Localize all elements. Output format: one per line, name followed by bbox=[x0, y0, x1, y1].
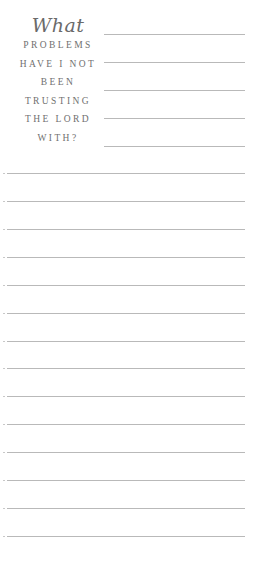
prompt-line-6: WITH? bbox=[14, 129, 102, 148]
line-tick-mark bbox=[3, 424, 5, 425]
prompt-line-3: BEEN bbox=[14, 73, 102, 92]
writing-line-short bbox=[104, 118, 245, 119]
writing-line-full bbox=[7, 396, 245, 397]
line-tick-mark bbox=[3, 173, 5, 174]
line-tick-mark bbox=[3, 396, 5, 397]
prompt-line-4: TRUSTING bbox=[14, 92, 102, 111]
line-tick-mark bbox=[3, 229, 5, 230]
line-tick-mark bbox=[3, 341, 5, 342]
writing-line-full bbox=[7, 173, 245, 174]
writing-line-short bbox=[104, 34, 245, 35]
prompt-line-5: THE LORD bbox=[14, 110, 102, 129]
writing-line-full bbox=[7, 452, 245, 453]
line-tick-mark bbox=[3, 257, 5, 258]
line-tick-mark bbox=[3, 368, 5, 369]
writing-line-short bbox=[104, 90, 245, 91]
line-tick-mark bbox=[3, 536, 5, 537]
prompt-script-word: What bbox=[14, 14, 102, 36]
line-tick-mark bbox=[3, 508, 5, 509]
writing-line-short bbox=[104, 146, 245, 147]
line-tick-mark bbox=[3, 480, 5, 481]
writing-line-full bbox=[7, 480, 245, 481]
prompt-line-2: HAVE I NOT bbox=[14, 55, 102, 74]
line-tick-mark bbox=[3, 452, 5, 453]
prompt-line-1: PROBLEMS bbox=[14, 36, 102, 55]
writing-line-full bbox=[7, 257, 245, 258]
writing-line-full bbox=[7, 285, 245, 286]
line-tick-mark bbox=[3, 285, 5, 286]
writing-line-full bbox=[7, 341, 245, 342]
line-tick-mark bbox=[3, 313, 5, 314]
writing-line-short bbox=[104, 62, 245, 63]
writing-line-full bbox=[7, 313, 245, 314]
writing-line-full bbox=[7, 424, 245, 425]
line-tick-mark bbox=[3, 201, 5, 202]
writing-line-full bbox=[7, 536, 245, 537]
writing-line-full bbox=[7, 229, 245, 230]
journal-prompt: What PROBLEMS HAVE I NOT BEEN TRUSTING T… bbox=[14, 14, 102, 147]
writing-line-full bbox=[7, 201, 245, 202]
writing-line-full bbox=[7, 508, 245, 509]
journal-page: What PROBLEMS HAVE I NOT BEEN TRUSTING T… bbox=[0, 0, 259, 562]
writing-line-full bbox=[7, 368, 245, 369]
